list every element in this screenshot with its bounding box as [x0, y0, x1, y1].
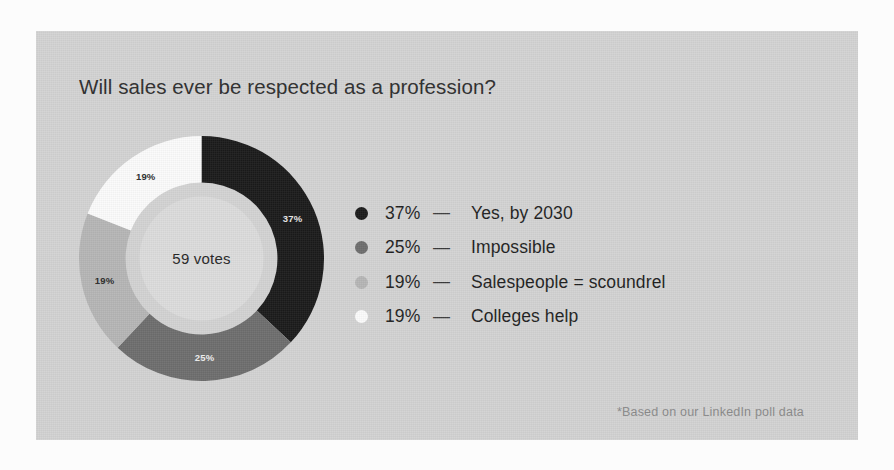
legend-swatch-icon	[355, 276, 368, 289]
legend-label: Impossible	[471, 237, 556, 258]
legend-label: Colleges help	[471, 306, 578, 327]
donut-slice-label: 19%	[95, 275, 115, 286]
legend-dash: —	[433, 238, 471, 258]
donut-center-label: 59 votes	[172, 250, 230, 267]
legend-dash: —	[433, 272, 471, 292]
legend-label: Salespeople = scoundrel	[471, 272, 665, 293]
legend-item-salespeople-scoundrel[interactable]: 19% — Salespeople = scoundrel	[355, 265, 815, 300]
legend-item-yes-by-2030[interactable]: 37% — Yes, by 2030	[355, 196, 815, 231]
legend-percent: 19%	[385, 272, 433, 293]
legend-percent: 19%	[385, 306, 433, 327]
donut-slice-label: 25%	[195, 352, 215, 363]
legend-swatch-icon	[355, 310, 368, 323]
poll-result-card: Will sales ever be respected as a profes…	[36, 31, 858, 440]
donut-slice-label: 37%	[283, 213, 303, 224]
legend-percent: 25%	[385, 237, 433, 258]
screenshot-root: Will sales ever be respected as a profes…	[0, 0, 894, 470]
donut-slice-label: 19%	[136, 171, 156, 182]
legend-swatch-icon	[355, 241, 368, 254]
legend-label: Yes, by 2030	[471, 203, 573, 224]
legend-dash: —	[433, 203, 471, 223]
legend-item-colleges-help[interactable]: 19% — Colleges help	[355, 300, 815, 335]
donut-chart-svg: 59 votes 37%25%19%19%	[79, 136, 324, 381]
legend-percent: 37%	[385, 203, 433, 224]
footnote: *Based on our LinkedIn poll data	[617, 405, 804, 419]
legend-dash: —	[433, 307, 471, 327]
page-title: Will sales ever be respected as a profes…	[79, 75, 496, 99]
legend-item-impossible[interactable]: 25% — Impossible	[355, 231, 815, 266]
legend-swatch-icon	[355, 207, 368, 220]
donut-slice[interactable]	[118, 310, 291, 381]
donut-chart: 59 votes 37%25%19%19%	[79, 136, 324, 381]
legend: 37% — Yes, by 2030 25% — Impossible 19% …	[355, 196, 815, 334]
